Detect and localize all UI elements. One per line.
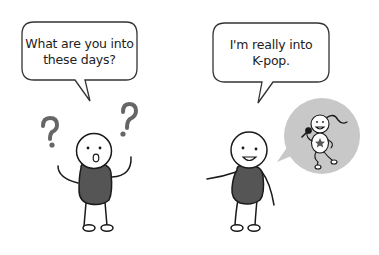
left-speech-text: What are you into these days? (22, 36, 137, 68)
left-character (58, 134, 131, 232)
right-speech-line-2: K-pop. (213, 53, 329, 69)
right-character (207, 132, 274, 231)
question-mark-icon (43, 118, 57, 139)
left-speech-line-1: What are you into (22, 36, 137, 52)
question-mark-dot (120, 131, 125, 136)
question-mark-icon (123, 104, 136, 128)
question-mark-dot (49, 142, 54, 147)
right-speech-text: I'm really into K-pop. (213, 37, 329, 69)
right-speech-line-1: I'm really into (213, 37, 329, 53)
left-speech-line-2: these days? (22, 52, 137, 68)
